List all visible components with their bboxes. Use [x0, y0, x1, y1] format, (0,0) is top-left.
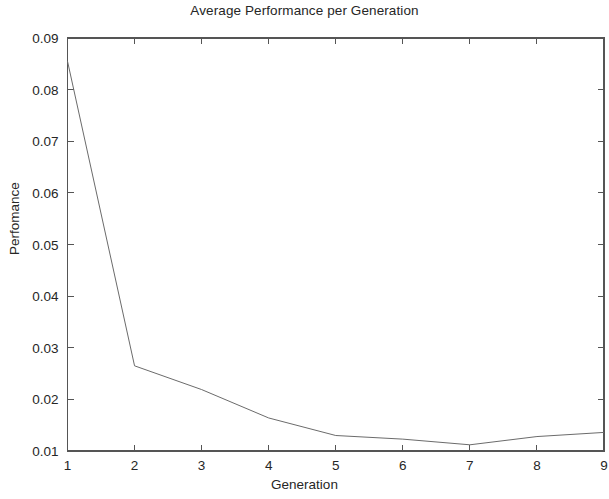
- x-tick-label: 8: [533, 458, 541, 473]
- x-tick-label: 2: [131, 458, 139, 473]
- y-tick-label: 0.04: [32, 289, 59, 304]
- data-series-line: [68, 61, 605, 445]
- y-axis-tick-labels: 0.010.020.030.040.050.060.070.080.09: [32, 31, 59, 459]
- figure-canvas: Average Performance per Generation Perfo…: [0, 0, 609, 499]
- y-tick-label: 0.09: [32, 31, 58, 46]
- axes-box: [68, 38, 605, 451]
- y-tick-label: 0.06: [32, 186, 58, 201]
- x-tick-label: 6: [399, 458, 407, 473]
- y-tick-label: 0.07: [32, 134, 58, 149]
- x-tick-label: 3: [198, 458, 206, 473]
- x-axis-ticks: [68, 38, 605, 451]
- y-tick-label: 0.01: [32, 444, 58, 459]
- y-tick-label: 0.08: [32, 83, 58, 98]
- y-tick-label: 0.02: [32, 392, 58, 407]
- x-tick-label: 4: [265, 458, 273, 473]
- plot-area: 123456789 0.010.020.030.040.050.060.070.…: [0, 0, 609, 499]
- x-axis-tick-labels: 123456789: [64, 458, 608, 473]
- x-tick-label: 7: [466, 458, 474, 473]
- y-tick-label: 0.03: [32, 341, 58, 356]
- y-tick-label: 0.05: [32, 238, 58, 253]
- x-tick-label: 9: [600, 458, 608, 473]
- x-tick-label: 5: [332, 458, 340, 473]
- x-tick-label: 1: [64, 458, 72, 473]
- y-axis-ticks: [68, 38, 605, 451]
